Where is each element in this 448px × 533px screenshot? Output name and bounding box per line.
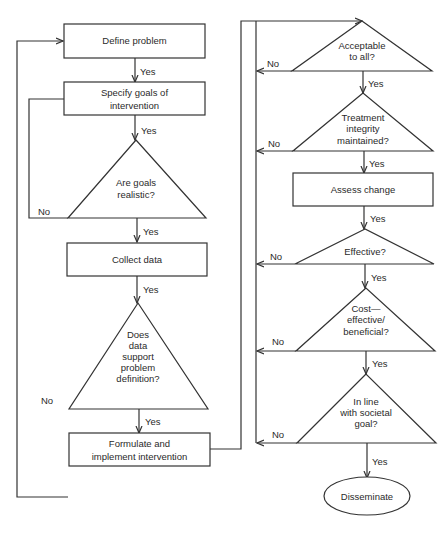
specify-goals-box: Specify goals of intervention [64,82,205,115]
svg-text:effective/: effective/ [347,314,385,325]
svg-text:with societal: with societal [339,407,392,418]
svg-text:realistic?: realistic? [117,189,155,200]
svg-text:Acceptable: Acceptable [338,40,385,51]
svg-text:Specify goals of: Specify goals of [101,87,168,98]
yes-label: Yes [372,358,388,369]
goals-realistic-decision: Are goals realistic? [68,140,206,218]
svg-text:Cost—: Cost— [351,303,381,314]
yes-label: Yes [372,456,388,467]
svg-text:beneficial?: beneficial? [343,326,388,337]
connector-to-right-column [210,21,362,449]
integrity-decision: Treatment integrity maintained? [293,93,433,151]
svg-text:Does: Does [127,329,149,340]
yes-label: Yes [368,78,384,89]
flowchart: Define problem Yes Specify goals of inte… [0,0,448,533]
no-label: No [272,336,284,347]
svg-text:Formulate and: Formulate and [109,438,170,449]
acceptable-decision: Acceptable to all? [292,21,432,71]
disseminate-terminal: Disseminate [324,477,410,515]
svg-text:definition?: definition? [116,373,159,384]
yes-label: Yes [145,416,161,427]
svg-text:goal?: goal? [354,418,377,429]
svg-text:implement intervention: implement intervention [92,451,188,462]
loop-line-inner-left [29,99,68,218]
svg-text:maintained?: maintained? [337,135,389,146]
define-problem-box: Define problem [64,24,205,58]
yes-label: Yes [141,125,157,136]
no-label: No [41,395,53,406]
societal-goal-decision: In line with societal goal? [297,374,436,443]
svg-text:In line: In line [353,396,378,407]
data-support-decision: Does data support problem definition? [69,303,208,409]
cost-effective-decision: Cost— effective/ beneficial? [296,288,435,351]
no-label: No [268,138,280,149]
yes-label: Yes [140,66,156,77]
no-label: No [38,206,50,217]
svg-text:Collect data: Collect data [112,254,163,265]
svg-text:intervention: intervention [110,100,159,111]
svg-text:problem: problem [121,362,155,373]
svg-text:data: data [129,340,148,351]
yes-label: Yes [370,213,386,224]
loop-line-outer-left [17,41,68,497]
no-label: No [267,58,279,69]
yes-label: Yes [369,158,385,169]
yes-label: Yes [143,226,159,237]
no-label: No [272,429,284,440]
svg-text:Are goals: Are goals [116,177,156,188]
yes-label: Yes [143,284,159,295]
svg-text:Treatment: Treatment [342,112,385,123]
formulate-intervention-box: Formulate and implement intervention [69,433,210,466]
svg-text:Define problem: Define problem [102,35,167,46]
svg-text:integrity: integrity [346,123,380,134]
collect-data-box: Collect data [67,243,207,276]
svg-text:support: support [122,351,154,362]
svg-text:Disseminate: Disseminate [341,491,393,502]
no-label: No [270,251,282,262]
effective-decision: Effective? [295,229,434,264]
yes-label: Yes [371,272,387,283]
assess-change-box: Assess change [293,173,433,206]
svg-text:to all?: to all? [349,51,374,62]
svg-text:Effective?: Effective? [344,246,386,257]
svg-text:Assess change: Assess change [331,184,395,195]
